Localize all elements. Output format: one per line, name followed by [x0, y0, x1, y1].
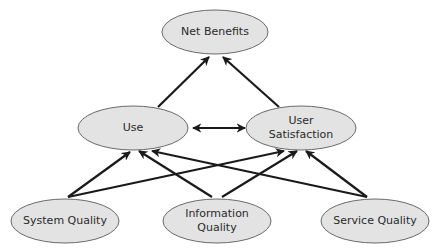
node-label-line-1: Information	[185, 207, 249, 220]
edge-use-to-net-benefits	[158, 57, 209, 107]
edge-user-satisfaction-to-net-benefits	[223, 57, 279, 107]
node-service-quality: Service Quality	[321, 199, 429, 243]
node-label: Net Benefits	[181, 25, 249, 38]
node-information-quality: Information Quality	[163, 199, 271, 243]
node-label-line-2: Satisfaction	[269, 128, 334, 141]
edge-information-quality-to-use	[139, 151, 212, 197]
node-use: Use	[78, 106, 188, 150]
node-user-satisfaction: User Satisfaction	[246, 106, 356, 150]
node-label: Use	[123, 121, 144, 134]
is-success-model-diagram: Net Benefits Use User Satisfaction Syste…	[0, 0, 436, 249]
node-label-line-1: User	[288, 114, 314, 127]
node-net-benefits: Net Benefits	[162, 10, 268, 54]
node-label: Service Quality	[333, 214, 417, 227]
node-label-line-2: Quality	[197, 221, 237, 234]
node-system-quality: System Quality	[11, 199, 119, 243]
node-label: System Quality	[23, 214, 107, 227]
